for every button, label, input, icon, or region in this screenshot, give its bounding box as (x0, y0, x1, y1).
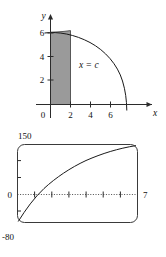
figure-container: y x 0 2 4 6 2 4 6 x = c (0, 0, 166, 257)
x-axis-label: x (152, 108, 158, 118)
shaded-region (51, 31, 71, 105)
bottom-ymin-label: -80 (2, 232, 14, 242)
region-label: x = c (78, 60, 99, 70)
y-tick-label-2: 2 (40, 75, 45, 85)
viewport-frame (18, 145, 138, 223)
bottom-yzero-label: 0 (8, 190, 13, 200)
x-tick-label-2: 2 (68, 110, 73, 120)
y-tick-label-4: 4 (40, 52, 45, 62)
bottom-xmax-label: 7 (143, 190, 148, 200)
y-tick-label-6: 6 (40, 28, 45, 38)
top-region-diagram: y x 0 2 4 6 2 4 6 x = c (0, 0, 166, 128)
top-chart-svg: y x 0 2 4 6 2 4 6 x = c (0, 0, 166, 128)
x-axis-arrow-icon (147, 102, 153, 107)
origin-label: 0 (41, 110, 46, 120)
x-tick-label-6: 6 (108, 110, 113, 120)
function-curve (18, 146, 136, 222)
bottom-calculator-graph: 150 -80 0 7 (0, 128, 166, 257)
bottom-chart-svg: 150 -80 0 7 (0, 128, 166, 257)
y-axis-label: y (40, 11, 46, 21)
bottom-ymax-label: 150 (18, 131, 32, 141)
y-axis-arrow-icon (48, 14, 53, 20)
x-tick-label-4: 4 (88, 110, 93, 120)
